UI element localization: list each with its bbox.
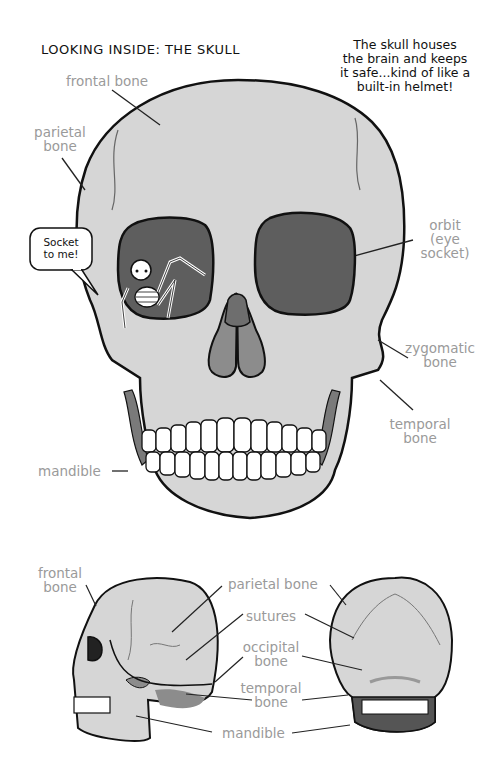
caption-line: The skull houses xyxy=(320,38,490,52)
label-occipital-bone: occipital bone xyxy=(236,640,306,668)
label-parietal-bone: parietal bone xyxy=(30,125,90,153)
caption-line: it safe...kind of like a xyxy=(320,66,490,80)
bubble-line: Socket xyxy=(30,236,92,248)
label-line: bone xyxy=(30,580,90,594)
right-orbit xyxy=(255,213,355,315)
label-frontal-bone: frontal bone xyxy=(66,74,148,88)
label-line: temporal xyxy=(236,681,306,695)
side-skull xyxy=(73,578,252,741)
label-line: occipital xyxy=(236,640,306,654)
label-line: zygomatic xyxy=(400,341,480,355)
label-side-mandible: mandible xyxy=(222,726,285,740)
back-skull xyxy=(292,578,452,733)
label-orbit: orbit (eye socket) xyxy=(410,218,480,260)
label-zygomatic-bone: zygomatic bone xyxy=(400,341,480,369)
label-side-parietal-bone: parietal bone xyxy=(228,577,318,591)
label-side-temporal-bone: temporal bone xyxy=(236,681,306,709)
label-side-frontal-bone: frontal bone xyxy=(30,566,90,594)
label-line: parietal xyxy=(30,125,90,139)
label-line: bone xyxy=(385,431,455,445)
label-line: socket) xyxy=(410,246,480,260)
front-skull xyxy=(62,80,413,518)
intro-caption: The skull houses the brain and keeps it … xyxy=(320,38,490,94)
label-line: orbit xyxy=(410,218,480,232)
label-sutures: sutures xyxy=(246,609,296,623)
label-line: bone xyxy=(400,355,480,369)
label-temporal-bone: temporal bone xyxy=(385,417,455,445)
caption-line: built-in helmet! xyxy=(320,80,490,94)
label-line: (eye xyxy=(410,232,480,246)
page-title: LOOKING INSIDE: THE SKULL xyxy=(41,42,240,57)
label-line: temporal xyxy=(385,417,455,431)
label-line: bone xyxy=(236,695,306,709)
label-line: frontal xyxy=(30,566,90,580)
label-mandible: mandible xyxy=(38,464,101,478)
label-line: bone xyxy=(236,654,306,668)
label-line: bone xyxy=(30,139,90,153)
speech-bubble-text: Socket to me! xyxy=(30,236,92,260)
bubble-line: to me! xyxy=(30,248,92,260)
caption-line: the brain and keeps xyxy=(320,52,490,66)
